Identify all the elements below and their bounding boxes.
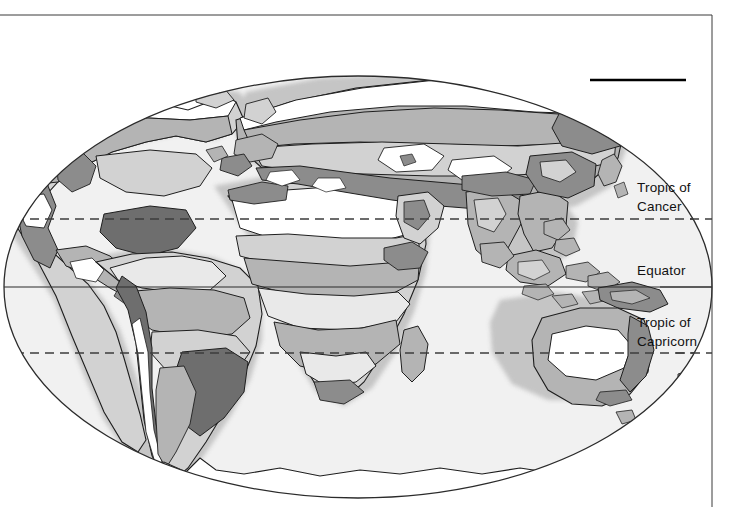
tropic-of-cancer-label: Tropic ofCancer	[637, 179, 691, 216]
equator-label: Equator	[637, 262, 686, 281]
tropic-of-capricorn-label-line1: Tropic of	[637, 315, 691, 330]
world-map-svg	[0, 0, 750, 507]
tropic-of-cancer-label-line1: Tropic of	[637, 180, 691, 195]
map-figure: Tropic ofCancer Equator Tropic ofCaprico…	[0, 0, 750, 507]
tropic-of-capricorn-label: Tropic ofCapricorn	[637, 314, 697, 351]
tropic-of-capricorn-label-line2: Capricorn	[637, 334, 697, 349]
tropic-of-cancer-label-line2: Cancer	[637, 199, 682, 214]
